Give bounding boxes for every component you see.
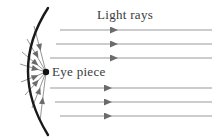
light-rays-label: Light rays (97, 7, 153, 23)
reflected-ray (22, 52, 46, 72)
eye-piece-focal-point (43, 69, 49, 75)
optics-diagram: Light rays Eye piece (0, 0, 214, 139)
eye-piece-label: Eye piece (52, 64, 106, 80)
